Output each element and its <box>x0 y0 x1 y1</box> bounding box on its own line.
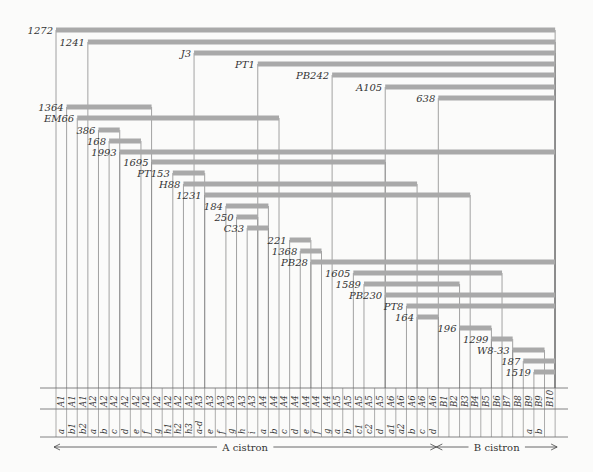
region-label: B10 <box>545 389 555 408</box>
deletion-label: 1364 <box>38 102 63 113</box>
region-label: B2 <box>449 395 459 408</box>
deletion-label: W8-33 <box>477 345 510 356</box>
region-label: A6 <box>428 395 438 408</box>
region-label: A1 <box>67 395 77 408</box>
region-label: A2 <box>88 395 98 408</box>
subregion-label: b <box>99 429 109 434</box>
region-label: A2 <box>120 395 130 408</box>
deletion-label: 1519 <box>505 367 531 378</box>
region-label: A5 <box>364 395 374 408</box>
cistron-label: A cistron <box>221 442 268 453</box>
deletion-bar <box>417 315 438 320</box>
deletion-bar <box>385 85 555 90</box>
region-label: A2 <box>184 395 194 408</box>
subregion-label: e <box>301 429 311 434</box>
region-label: A3 <box>205 395 215 408</box>
deletion-bar <box>332 73 555 78</box>
subregion-label: g <box>322 428 332 434</box>
deletion-bar <box>385 293 555 298</box>
region-label: A5 <box>354 395 364 408</box>
subregion-label: a <box>258 429 268 434</box>
subregion-label: h3 <box>184 423 194 434</box>
deletion-label: PT153 <box>136 168 170 179</box>
deletion-bar <box>247 226 268 231</box>
region-label: A4 <box>290 395 300 408</box>
deletion-label: 1231 <box>176 190 201 201</box>
subregion-label: f <box>216 429 226 435</box>
deletion-bar <box>300 249 321 254</box>
region-label: A3 <box>237 395 247 408</box>
deletion-bar <box>152 160 386 165</box>
subregion-label: d <box>428 428 438 434</box>
deletion-bar <box>237 215 258 220</box>
subregion-label: b <box>534 429 544 434</box>
subregion-label: b2 <box>78 423 88 434</box>
deletion-label: 168 <box>87 136 106 147</box>
deletion-label: 1368 <box>272 246 297 257</box>
region-label: A6 <box>396 395 406 408</box>
subregion-label: b <box>407 429 417 434</box>
deletion-label: 196 <box>437 323 457 334</box>
subregion-label: e <box>131 429 141 434</box>
deletion-label: 250 <box>213 212 234 223</box>
subregion-label: a2 <box>396 424 406 434</box>
subregion-label: g <box>152 428 162 434</box>
deletion-bar <box>353 271 502 276</box>
deletion-bar <box>523 359 555 364</box>
region-label: B7 <box>502 395 512 408</box>
deletion-label: 1299 <box>463 334 489 345</box>
deletion-label: 1605 <box>325 268 350 279</box>
deletion-bar <box>88 40 555 45</box>
deletion-map-diagram: 12721241J3PT1PB242A1056381364EM663861681… <box>0 0 593 472</box>
subregion-label: a <box>332 429 342 434</box>
subregion-label: h2 <box>173 423 183 434</box>
deletion-label: 1589 <box>336 279 362 290</box>
region-label: B9 <box>534 395 544 408</box>
deletion-label: 386 <box>76 125 96 136</box>
region-label: B1 <box>439 395 449 408</box>
region-label: A4 <box>258 395 268 408</box>
subregion-label: c1 <box>354 424 364 434</box>
deletion-bar <box>109 139 141 144</box>
subregion-label: e <box>205 429 215 434</box>
region-label: A4 <box>311 395 321 408</box>
region-label: A4 <box>301 395 311 408</box>
subregion-label: h1 <box>163 423 173 434</box>
subregion-label: a-d <box>194 420 204 434</box>
subregion-label: i <box>247 431 257 434</box>
region-label: A3 <box>216 395 226 408</box>
region-label: A5 <box>375 395 385 408</box>
subregion-label: a1 <box>386 424 396 434</box>
deletion-bar <box>290 238 311 243</box>
deletion-bar <box>56 28 555 33</box>
subregion-label: c <box>109 429 119 434</box>
deletion-label: PT8 <box>383 301 404 312</box>
deletion-label: 1272 <box>28 25 53 36</box>
region-label: B5 <box>481 395 491 408</box>
deletion-label: H88 <box>158 179 180 190</box>
deletion-label: PB28 <box>280 257 308 268</box>
region-label: A1 <box>78 395 88 408</box>
region-label: A3 <box>226 395 236 408</box>
region-label: A6 <box>386 395 396 408</box>
deletion-label: 164 <box>395 312 414 323</box>
region-label: A3 <box>194 395 204 408</box>
deletion-bar <box>364 282 460 287</box>
region-label: A2 <box>152 395 162 408</box>
subregion-label: d <box>120 428 130 434</box>
region-label: A2 <box>163 395 173 408</box>
deletion-bar <box>311 260 555 265</box>
region-label: A5 <box>332 395 342 408</box>
subregion-label: d <box>290 428 300 434</box>
deletion-bar <box>77 116 279 121</box>
subregion-label: f <box>311 429 321 435</box>
region-label: A4 <box>279 395 289 408</box>
subregion-label: g <box>226 428 236 434</box>
subregion-label: d <box>375 428 385 434</box>
deletion-bar <box>173 171 205 176</box>
deletion-bar <box>460 326 492 331</box>
deletion-bar <box>534 370 555 375</box>
deletion-label: A105 <box>355 82 382 93</box>
region-label: A2 <box>109 395 119 408</box>
region-label: B4 <box>470 395 480 408</box>
